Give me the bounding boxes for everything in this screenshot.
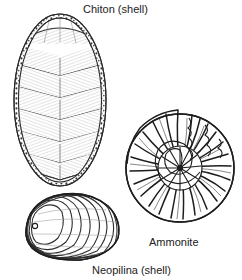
neopilina-shell-illustration	[22, 190, 126, 262]
neopilina-shell-icon	[22, 190, 126, 262]
ammonite-label: Ammonite	[149, 236, 199, 248]
mollusc-shells-figure: Chiton (shell) Ammonite Neopilina (shell…	[0, 0, 242, 280]
ammonite-shell-illustration	[126, 92, 240, 232]
chiton-shell-icon	[10, 12, 110, 188]
ammonite-whorl-group	[126, 110, 234, 222]
chiton-shell-illustration	[10, 12, 110, 188]
neopilina-apex	[32, 223, 37, 228]
ammonite-shell-icon	[126, 92, 240, 232]
neopilina-label: Neopilina (shell)	[92, 264, 171, 276]
chiton-label: Chiton (shell)	[83, 3, 148, 15]
